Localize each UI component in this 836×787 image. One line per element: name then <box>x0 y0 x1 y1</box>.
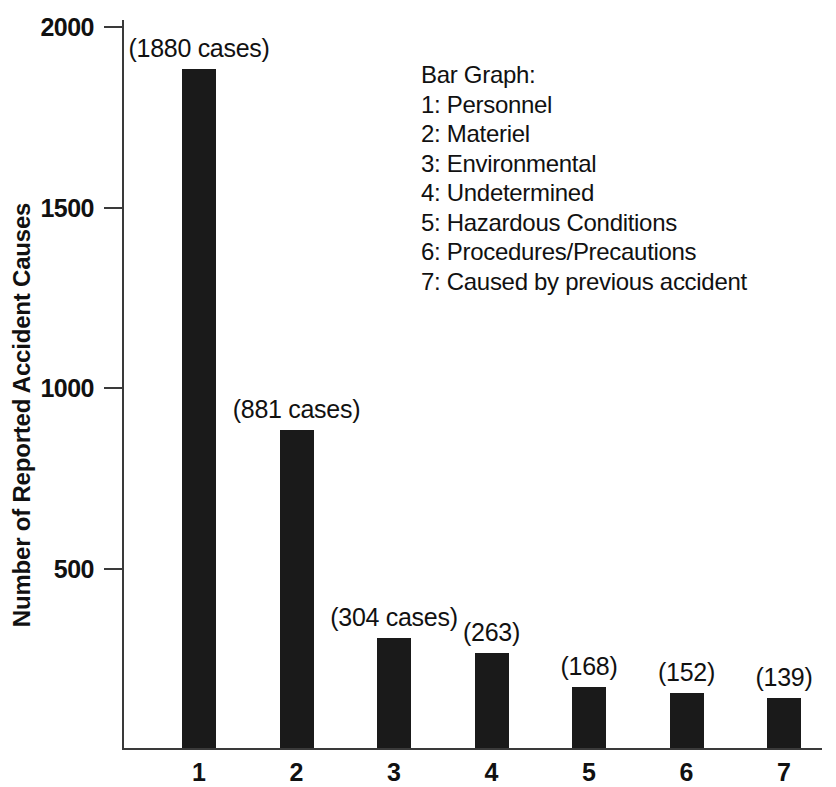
bar <box>572 687 606 748</box>
x-axis-category-label: 1 <box>192 760 206 785</box>
y-axis-tick: 500 <box>104 568 122 570</box>
bar <box>767 698 801 748</box>
bar <box>377 638 411 748</box>
legend-item-7: 7: Caused by previous accident <box>421 267 747 297</box>
x-axis-category-label: 3 <box>387 760 401 785</box>
legend: Bar Graph: 1: Personnel 2: Materiel 3: E… <box>421 60 747 296</box>
y-axis-tick: 2000 <box>104 26 122 28</box>
y-axis-title: Number of Reported Accident Causes <box>8 203 36 627</box>
bar <box>280 430 314 748</box>
x-axis-category-label: 6 <box>680 760 694 785</box>
legend-item-1: 1: Personnel <box>421 90 747 120</box>
y-axis-tick: 1000 <box>104 387 122 389</box>
bar <box>182 69 216 748</box>
legend-item-3: 3: Environmental <box>421 149 747 179</box>
bar-value-label: (881 cases) <box>233 397 360 422</box>
x-axis-category-label: 5 <box>582 760 596 785</box>
bar-value-label: (139) <box>756 665 813 690</box>
bar <box>475 653 509 748</box>
bar-value-label: (168) <box>561 654 618 679</box>
x-axis-category-label: 4 <box>485 760 499 785</box>
legend-item-4: 4: Undetermined <box>421 178 747 208</box>
x-axis-category-label: 7 <box>777 760 791 785</box>
x-axis <box>122 748 822 750</box>
bar-chart: Number of Reported Accident Causes 50010… <box>0 0 836 787</box>
y-axis-tick: 1500 <box>104 207 122 209</box>
bar <box>670 693 704 748</box>
bar-value-label: (152) <box>658 660 715 685</box>
legend-heading: Bar Graph: <box>421 60 747 90</box>
bar-value-label: (263) <box>463 620 520 645</box>
legend-item-5: 5: Hazardous Conditions <box>421 208 747 238</box>
bar-value-label: (304 cases) <box>330 605 457 630</box>
y-axis: 500100015002000 <box>122 20 124 750</box>
x-axis-category-label: 2 <box>290 760 304 785</box>
y-axis-tick-label: 1000 <box>40 376 94 401</box>
legend-item-2: 2: Materiel <box>421 119 747 149</box>
y-axis-tick-label: 1500 <box>40 195 94 220</box>
y-axis-tick-label: 500 <box>54 556 94 581</box>
y-axis-tick-label: 2000 <box>40 15 94 40</box>
legend-item-6: 6: Procedures/Precautions <box>421 237 747 267</box>
bar-value-label: (1880 cases) <box>129 36 270 61</box>
